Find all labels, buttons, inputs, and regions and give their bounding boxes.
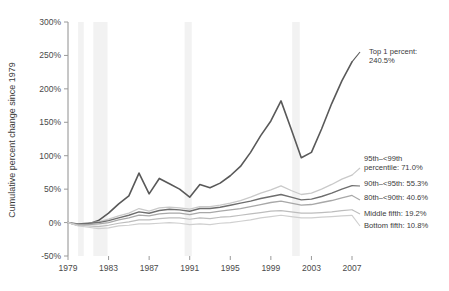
legend-leader-line bbox=[352, 215, 360, 226]
annotations: Top 1 percent:240.5%95th–<99thpercentile… bbox=[364, 47, 428, 230]
x-tick-label: 1979 bbox=[59, 263, 78, 273]
annotation-middle-fifth: Middle fifth: 19.2% bbox=[364, 209, 427, 218]
y-tick-label: 0% bbox=[49, 218, 62, 228]
y-tick-label: 250% bbox=[39, 50, 61, 60]
annotation-top-1-percent: Top 1 percent:240.5% bbox=[369, 47, 417, 65]
y-tick-label: -50% bbox=[41, 251, 61, 261]
annotation-p90-95: 90th–<95th: 55.3% bbox=[364, 179, 428, 188]
x-tick-label: 1999 bbox=[261, 263, 280, 273]
y-tick-label: 200% bbox=[39, 84, 61, 94]
recession-band bbox=[185, 22, 192, 256]
y-tick-label: 150% bbox=[39, 117, 61, 127]
leader-lines bbox=[352, 52, 360, 226]
y-axis-title: Cumulative percent change since 1979 bbox=[7, 62, 17, 218]
y-tick-label: 100% bbox=[39, 151, 61, 161]
y-tick-label: 300% bbox=[39, 17, 61, 27]
y-tick-label: 50% bbox=[44, 184, 61, 194]
x-tick-label: 1991 bbox=[180, 263, 199, 273]
legend-leader-line bbox=[352, 210, 360, 214]
x-tick-label: 2007 bbox=[343, 263, 362, 273]
annotation-p80-90: 80th–<90th: 40.6% bbox=[364, 193, 428, 202]
y-axis: 300%250%200%150%100%50%0%-50% bbox=[39, 17, 68, 261]
series-line bbox=[68, 62, 352, 225]
x-tick-label: 1995 bbox=[221, 263, 240, 273]
x-tick-label: 1987 bbox=[140, 263, 159, 273]
x-tick-label: 1983 bbox=[99, 263, 118, 273]
recession-bands bbox=[78, 22, 300, 256]
chart-container: 300%250%200%150%100%50%0%-50% 1979198319… bbox=[0, 0, 449, 291]
legend-leader-line bbox=[352, 168, 360, 175]
series-lines bbox=[68, 62, 352, 229]
annotation-bottom-fifth: Bottom fifth: 10.8% bbox=[364, 221, 428, 230]
x-tick-label: 2003 bbox=[302, 263, 321, 273]
annotation-p95-99: 95th–<99thpercentile: 71.0% bbox=[364, 154, 423, 172]
line-chart: 300%250%200%150%100%50%0%-50% 1979198319… bbox=[0, 0, 449, 291]
recession-band bbox=[292, 22, 300, 256]
legend-leader-line bbox=[352, 52, 360, 62]
recession-band bbox=[78, 22, 84, 256]
x-axis: 19791983198719911995199920032007 bbox=[59, 256, 362, 273]
legend-leader-line bbox=[352, 195, 360, 200]
